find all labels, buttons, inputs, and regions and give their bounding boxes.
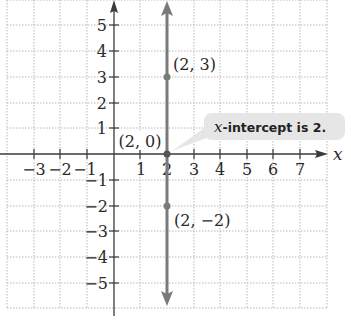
x-tick-labels: −3 −2 −1 1 2 3 4 5 6 7 (22, 160, 305, 179)
y-tick-label: −2 (84, 197, 108, 216)
point-label-2-0: (2, 0) (118, 132, 161, 151)
y-tick-label: 4 (97, 42, 107, 61)
x-tick-label: 1 (136, 160, 146, 179)
y-tick-label: 5 (97, 16, 107, 35)
point-2-0 (164, 151, 171, 158)
x-tick-label: 7 (295, 160, 305, 179)
x-tick-label: −2 (48, 160, 72, 179)
x-tick-label: 5 (242, 160, 252, 179)
x-tick-label: 4 (215, 160, 225, 179)
point-2-neg2 (164, 203, 171, 210)
x-tick-label: 3 (189, 160, 199, 179)
point-label-2-3: (2, 3) (173, 55, 216, 74)
y-tick-label: 3 (97, 68, 107, 87)
point-label-2-neg2: (2, −2) (174, 211, 230, 230)
y-tick-label: 1 (97, 119, 107, 138)
y-tick-label: 2 (97, 94, 107, 113)
graph: −3 −2 −1 1 2 3 4 5 6 7 x 5 4 3 2 1 −1 −2… (0, 0, 351, 325)
callout-text: x-intercept is 2. (214, 118, 326, 136)
x-axis-label: x (333, 144, 343, 164)
y-tick-label: −5 (84, 274, 108, 293)
y-tick-label: −3 (84, 222, 108, 241)
x-tick-label: 6 (268, 160, 278, 179)
y-tick-label: −4 (84, 248, 108, 267)
y-tick-label: −1 (84, 171, 108, 190)
point-2-3 (164, 74, 171, 81)
x-tick-label: −3 (22, 160, 46, 179)
x-intercept-callout: x-intercept is 2. (172, 113, 345, 151)
